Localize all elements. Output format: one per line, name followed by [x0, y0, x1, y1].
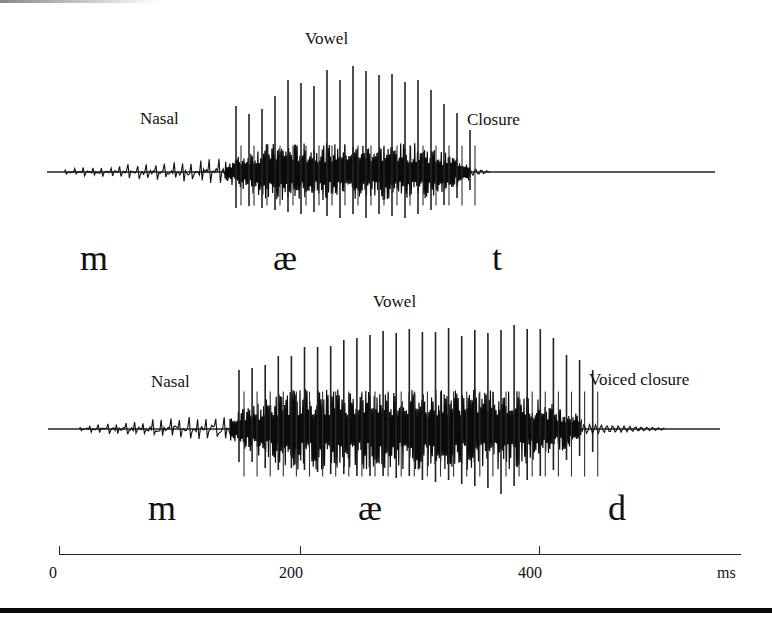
axis-tick-400	[539, 546, 540, 555]
bottom-closure-label: Voiced closure	[589, 371, 689, 388]
waveform-mad	[48, 325, 720, 494]
top-closure-label: Closure	[467, 111, 520, 128]
bottom-border-bar	[0, 608, 772, 613]
top-phoneme-ae: æ	[273, 240, 297, 276]
waveform-plot	[0, 0, 772, 626]
axis-tick-200	[300, 546, 301, 555]
time-axis-line	[59, 554, 741, 555]
axis-unit-label: ms	[717, 565, 736, 581]
axis-label-400: 400	[518, 565, 542, 581]
axis-label-200: 200	[279, 565, 303, 581]
top-phoneme-m: m	[80, 240, 108, 276]
bottom-vowel-label: Vowel	[373, 293, 416, 310]
waveform-mat	[47, 66, 715, 218]
axis-label-0: 0	[49, 565, 57, 581]
top-phoneme-t: t	[492, 240, 502, 276]
top-vowel-label: Vowel	[305, 30, 348, 47]
axis-tick-0	[59, 546, 60, 555]
bottom-phoneme-d: d	[608, 490, 626, 526]
top-nasal-label: Nasal	[140, 110, 179, 127]
bottom-nasal-label: Nasal	[151, 373, 190, 390]
bottom-phoneme-m: m	[148, 490, 176, 526]
bottom-phoneme-ae: æ	[358, 490, 382, 526]
